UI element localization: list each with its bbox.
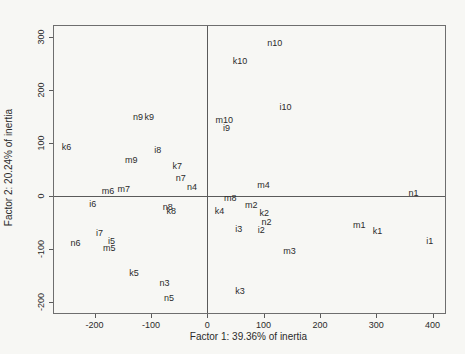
point-label-i6: i6 (89, 199, 96, 208)
point-label-m1: m1 (353, 220, 366, 229)
x-axis-tick-label: 0 (205, 321, 210, 330)
y-axis-tick-label: 100 (37, 135, 46, 150)
point-label-k10: k10 (233, 56, 248, 65)
point-label-n5: n5 (164, 294, 174, 303)
point-label-m3: m3 (283, 247, 296, 256)
point-label-i9: i9 (223, 123, 230, 132)
y-axis-tick-label: -200 (37, 293, 46, 311)
point-label-k7: k7 (173, 162, 183, 171)
point-label-i3: i3 (235, 225, 242, 234)
zero-reference-line-horizontal (54, 196, 445, 197)
point-label-m5: m5 (103, 243, 116, 252)
point-label-m8: m8 (224, 194, 237, 203)
point-label-i2: i2 (258, 225, 265, 234)
point-label-k4: k4 (215, 207, 225, 216)
point-label-i7: i7 (96, 229, 103, 238)
point-label-k3: k3 (235, 287, 245, 296)
point-label-n7: n7 (176, 174, 186, 183)
point-label-m2: m2 (245, 200, 258, 209)
y-axis-tick-mark (49, 90, 53, 91)
x-axis-tick-label: 300 (369, 321, 384, 330)
x-axis-tick-label: -100 (142, 321, 160, 330)
point-label-m6: m6 (102, 186, 115, 195)
y-axis-tick-label: -100 (37, 240, 46, 258)
x-axis-tick-mark (433, 314, 434, 318)
y-axis-tick-label: 200 (37, 82, 46, 97)
x-axis-tick-mark (376, 314, 377, 318)
point-label-k6: k6 (62, 142, 72, 151)
point-label-n10: n10 (267, 39, 282, 48)
y-axis-tick-mark (49, 302, 53, 303)
point-label-i8: i8 (154, 146, 161, 155)
y-axis-title: Factor 2: 20.24% of inertia (3, 98, 14, 238)
point-label-n1: n1 (408, 189, 418, 198)
point-label-k5: k5 (129, 268, 139, 277)
point-label-k8: k8 (166, 207, 176, 216)
x-axis-tick-mark (264, 314, 265, 318)
point-label-m4: m4 (257, 181, 270, 190)
point-label-n3: n3 (159, 279, 169, 288)
x-axis-tick-mark (207, 314, 208, 318)
x-axis-tick-label: 200 (312, 321, 327, 330)
y-axis-tick-mark (49, 143, 53, 144)
point-label-n9: n9 (133, 113, 143, 122)
point-label-n6: n6 (70, 239, 80, 248)
point-label-n4: n4 (187, 182, 197, 191)
x-axis-tick-label: -200 (86, 321, 104, 330)
y-axis-tick-mark (49, 249, 53, 250)
scatter-plot-figure: -200-1000100200300400-200-1000100200300n… (0, 0, 465, 354)
y-axis-tick-mark (49, 196, 53, 197)
x-axis-title: Factor 1: 39.36% of inertia (53, 331, 444, 342)
point-label-i10: i10 (280, 102, 292, 111)
y-axis-tick-label: 300 (37, 29, 46, 44)
zero-reference-line-vertical (207, 26, 208, 313)
point-label-m9: m9 (125, 155, 138, 164)
y-axis-tick-mark (49, 37, 53, 38)
point-label-i1: i1 (426, 236, 433, 245)
x-axis-tick-mark (320, 314, 321, 318)
x-axis-tick-label: 400 (425, 321, 440, 330)
x-axis-tick-mark (95, 314, 96, 318)
plot-area: -200-1000100200300400-200-1000100200300n… (53, 25, 446, 314)
point-label-k1: k1 (373, 226, 383, 235)
x-axis-tick-label: 100 (256, 321, 271, 330)
point-label-k9: k9 (144, 113, 154, 122)
point-label-m7: m7 (118, 184, 131, 193)
x-axis-tick-mark (151, 314, 152, 318)
y-axis-tick-label: 0 (37, 194, 46, 199)
